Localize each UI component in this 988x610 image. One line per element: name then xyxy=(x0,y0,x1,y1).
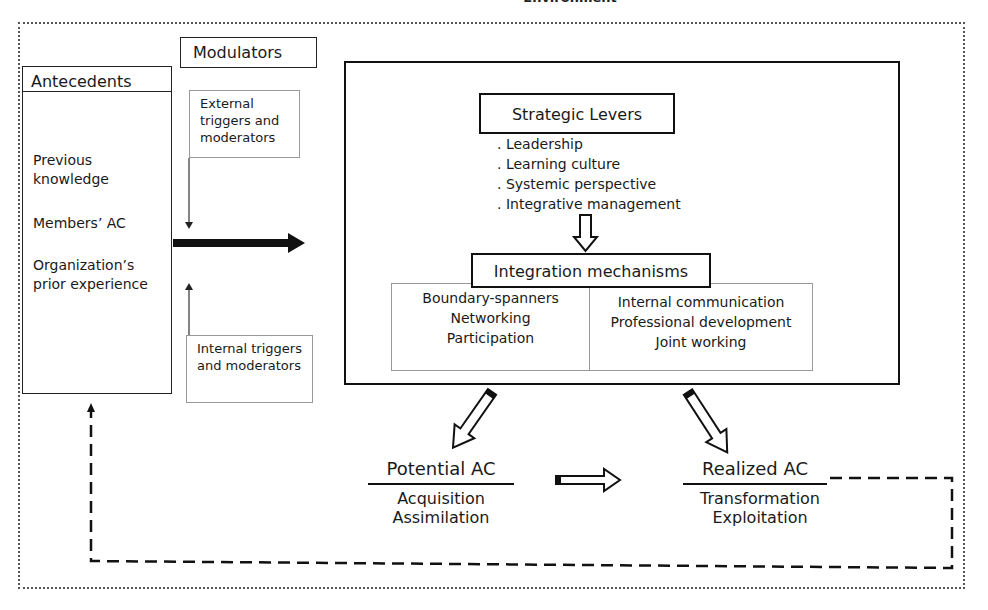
strategic-levers-box: Strategic Levers xyxy=(479,93,675,134)
main-to-potential-arrow-icon xyxy=(443,385,502,454)
modulators-label-box: Modulators xyxy=(180,37,317,68)
integration-mechanisms-box: Integration mechanisms xyxy=(471,253,711,288)
antecedent-item: Organization’s prior experience xyxy=(33,256,168,294)
external-triggers-box: External triggers and moderators xyxy=(189,90,300,158)
strategic-levers-list: . Leadership . Learning culture . System… xyxy=(497,134,737,214)
lever-item: . Leadership xyxy=(497,134,737,154)
realized-ac-item: Transformation xyxy=(675,489,845,508)
integration-details-box: Boundary-spanners Networking Participati… xyxy=(391,283,813,371)
realized-ac-item: Exploitation xyxy=(675,508,845,527)
integration-right-list: Internal communication Professional deve… xyxy=(590,292,812,352)
integration-item: Boundary-spanners xyxy=(392,288,589,308)
potential-ac-item: Acquisition xyxy=(368,489,514,508)
integration-item: Joint working xyxy=(590,332,812,352)
lever-item: . Integrative management xyxy=(497,194,737,214)
integration-left-list: Boundary-spanners Networking Participati… xyxy=(392,288,589,348)
internal-arrow-head-icon xyxy=(185,283,193,290)
modulators-label: Modulators xyxy=(193,43,282,62)
integration-mechanisms-title: Integration mechanisms xyxy=(494,262,688,281)
realized-ac-title: Realized AC xyxy=(683,458,827,485)
external-arrow-head-icon xyxy=(185,222,193,229)
potential-to-realized-arrow-icon xyxy=(556,469,620,491)
lever-item: . Learning culture xyxy=(497,154,737,174)
antecedents-title: Antecedents xyxy=(23,67,171,92)
integration-item: Professional development xyxy=(590,312,812,332)
potential-ac-item: Assimilation xyxy=(368,508,514,527)
antecedent-item: Previous knowledge xyxy=(33,151,168,189)
feedback-arrow-head-icon xyxy=(87,403,95,412)
external-triggers-text: External triggers and moderators xyxy=(200,96,279,145)
internal-triggers-text: Internal triggers and moderators xyxy=(197,341,302,373)
integration-item: Networking xyxy=(392,308,589,328)
main-arrow-head-icon xyxy=(288,233,305,253)
integration-item: Participation xyxy=(392,328,589,348)
integration-item: Internal communication xyxy=(590,292,812,312)
potential-ac-group: Potential AC Acquisition Assimilation xyxy=(368,458,514,527)
potential-ac-title: Potential AC xyxy=(368,458,514,485)
lever-item: . Systemic perspective xyxy=(497,174,737,194)
antecedents-box: Antecedents Previous knowledge Members’ … xyxy=(22,66,172,394)
strategic-levers-title: Strategic Levers xyxy=(512,105,642,124)
realized-ac-group: Realized AC Transformation Exploitation xyxy=(675,458,845,527)
main-arrow-shaft xyxy=(173,239,288,247)
antecedent-item: Members’ AC xyxy=(33,214,168,233)
internal-triggers-box: Internal triggers and moderators xyxy=(186,335,313,403)
main-to-realized-arrow-icon xyxy=(678,385,737,458)
